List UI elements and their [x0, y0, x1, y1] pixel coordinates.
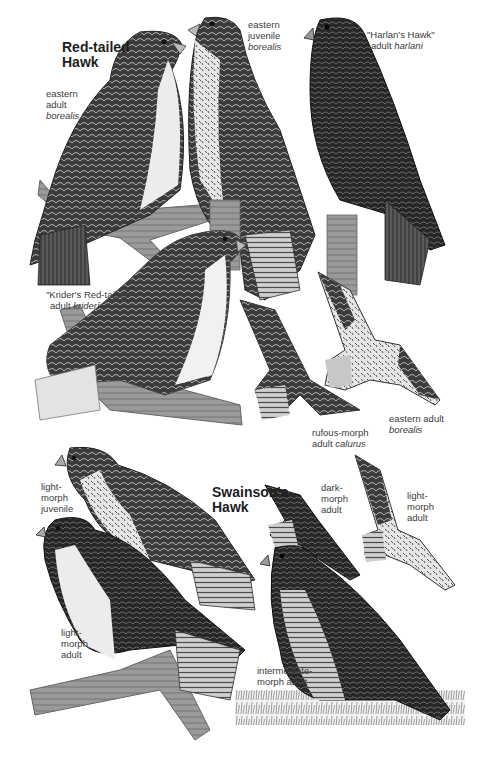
label-line: adult kriderí: [46, 300, 131, 311]
label-text: calurus: [335, 438, 366, 449]
label-text: adult: [312, 438, 335, 449]
label-line: rufous-morph: [312, 427, 369, 438]
label-line: intermediate-: [257, 665, 312, 676]
label-line: light-: [407, 490, 434, 501]
label-text: harlani: [394, 40, 423, 51]
label-line: adult: [46, 99, 79, 110]
label-kriders-red-tailed: "Krider's Red-tailed" adult kriderí: [46, 289, 131, 311]
label-line: morph adult: [257, 676, 312, 687]
label-dark-morph-adult: dark- morph adult: [321, 482, 348, 515]
label-line: adult: [61, 649, 88, 660]
label-line: "Harlan's Hawk": [367, 29, 435, 40]
label-line: borealis: [389, 424, 444, 435]
label-intermediate-morph-adult: intermediate- morph adult: [257, 665, 312, 687]
label-light-morph-adult: light- morph adult: [61, 627, 88, 660]
label-line: borealis: [248, 41, 281, 52]
label-line: borealis: [46, 110, 79, 121]
label-harlans-hawk: "Harlan's Hawk" adult harlani: [367, 29, 435, 51]
label-line: juvenile: [41, 503, 73, 514]
bird-swainsons-light-morph-flight: [355, 455, 455, 590]
label-light-morph-juvenile: light- morph juvenile: [41, 481, 73, 514]
label-line: "Krider's Red-tailed": [46, 289, 131, 300]
label-rufous-morph-calurus: rufous-morph adult calurus: [312, 427, 369, 449]
title-line: Hawk: [62, 55, 130, 70]
label-line: morph: [321, 493, 348, 504]
title-line: Swainson's: [212, 485, 288, 500]
label-text: adult: [50, 300, 73, 311]
label-line: dark-: [321, 482, 348, 493]
label-line: eastern: [46, 88, 79, 99]
bird-harlans-hawk: [304, 18, 445, 285]
label-line: adult: [321, 504, 348, 515]
label-line: eastern adult: [389, 413, 444, 424]
label-line: light-: [61, 627, 88, 638]
label-line: morph: [407, 501, 434, 512]
label-text: adult: [371, 40, 394, 51]
label-line: light-: [41, 481, 73, 492]
label-line: adult calurus: [312, 438, 369, 449]
label-line: morph: [41, 492, 73, 503]
title-line: Red-tailed: [62, 40, 130, 55]
label-light-morph-adult-flight: light- morph adult: [407, 490, 434, 523]
species-title-red-tailed-hawk: Red-tailed Hawk: [62, 40, 130, 70]
label-eastern-juvenile-borealis: eastern juvenile borealis: [248, 19, 281, 52]
label-line: eastern: [248, 19, 281, 30]
label-eastern-adult-borealis: eastern adult borealis: [46, 88, 79, 121]
label-line: morph: [61, 638, 88, 649]
label-eastern-adult-borealis-flight: eastern adult borealis: [389, 413, 444, 435]
label-line: adult: [407, 512, 434, 523]
title-line: Hawk: [212, 500, 288, 515]
species-title-swainsons-hawk: Swainson's Hawk: [212, 485, 288, 515]
label-text: kriderí: [73, 300, 99, 311]
label-line: adult harlani: [367, 40, 435, 51]
label-line: juvenile: [248, 30, 281, 41]
bird-eastern-adult-borealis-flight: [318, 272, 440, 405]
